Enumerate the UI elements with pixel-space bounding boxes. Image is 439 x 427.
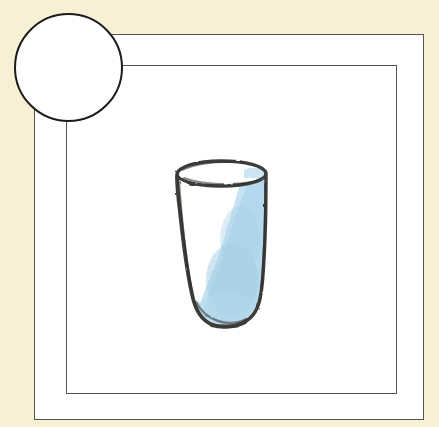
- illustration-scene: [0, 0, 439, 427]
- circle-badge: [14, 13, 123, 122]
- card-inner-frame: [66, 65, 397, 394]
